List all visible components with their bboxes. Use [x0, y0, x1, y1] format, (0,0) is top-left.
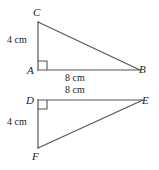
right-angle-marker-d [38, 100, 47, 109]
measure-label-ca: 4 cm [7, 35, 27, 45]
segment-cb [38, 22, 140, 70]
geometry-figure: C A B 4 cm 8 cm D E F 8 cm 4 cm [0, 0, 159, 170]
vertex-label-b: B [139, 64, 146, 75]
measure-label-df: 4 cm [7, 117, 27, 127]
vertex-label-e: E [142, 95, 149, 106]
vertex-label-d: D [26, 95, 34, 106]
vertex-label-c: C [33, 7, 40, 18]
vertex-label-f: F [32, 151, 39, 162]
triangle-abc-shape [38, 22, 140, 70]
segment-fe [38, 100, 143, 148]
vertex-label-a: A [27, 65, 34, 76]
right-angle-marker-a [38, 61, 47, 70]
measure-label-ab: 8 cm [65, 73, 85, 83]
measure-label-de: 8 cm [65, 85, 85, 95]
triangle-def-shape [38, 100, 143, 148]
